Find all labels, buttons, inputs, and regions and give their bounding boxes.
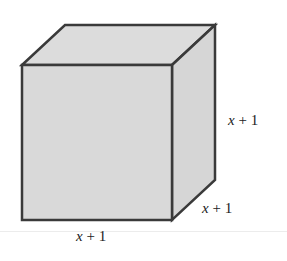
- cube-diagram: [0, 0, 287, 261]
- depth-label-rest: + 1: [209, 200, 232, 216]
- depth-label: x + 1: [202, 200, 232, 217]
- depth-label-var: x: [202, 200, 209, 216]
- height-label-rest: + 1: [235, 112, 258, 128]
- height-label-var: x: [228, 112, 235, 128]
- cube-front-face: [22, 65, 172, 220]
- width-label-var: x: [76, 228, 83, 244]
- width-label: x + 1: [76, 228, 106, 245]
- width-label-rest: + 1: [83, 228, 106, 244]
- height-label: x + 1: [228, 112, 258, 129]
